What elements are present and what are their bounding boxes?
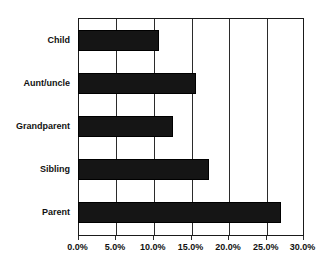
category-label-aunt-uncle: Aunt/uncle xyxy=(24,78,71,88)
x-tick-label-30: 30.0% xyxy=(290,242,316,253)
category-axis: Child Aunt/uncle Grandparent Sibling Par… xyxy=(0,18,74,236)
x-tick xyxy=(153,236,154,240)
x-tick-label-5: 5.0% xyxy=(105,242,126,253)
x-tick-label-25: 25.0% xyxy=(253,242,279,253)
bar-aunt-uncle xyxy=(78,73,196,94)
bar-grandparent xyxy=(78,116,174,137)
category-label-child: Child xyxy=(48,35,71,45)
x-tick-label-0: 0.0% xyxy=(67,242,88,253)
x-axis-labels: 0.0% 5.0% 10.0% 15.0% 20.0% 25.0% 30.0% xyxy=(0,242,325,258)
bar-parent xyxy=(78,202,281,223)
bar-child xyxy=(78,30,159,51)
x-tick xyxy=(303,236,304,240)
category-label-sibling: Sibling xyxy=(40,164,70,174)
x-tick-label-15: 15.0% xyxy=(178,242,204,253)
category-label-grandparent: Grandparent xyxy=(16,121,70,131)
x-tick xyxy=(115,236,116,240)
bars-layer xyxy=(78,18,304,236)
x-tick-label-20: 20.0% xyxy=(215,242,241,253)
category-label-parent: Parent xyxy=(42,207,70,217)
x-tick-marks xyxy=(78,236,304,240)
x-tick xyxy=(266,236,267,240)
bar-sibling xyxy=(78,159,210,180)
bar-chart: Child Aunt/uncle Grandparent Sibling Par… xyxy=(0,0,325,273)
x-tick xyxy=(78,236,79,240)
x-tick xyxy=(191,236,192,240)
x-tick xyxy=(228,236,229,240)
x-tick-label-10: 10.0% xyxy=(140,242,166,253)
